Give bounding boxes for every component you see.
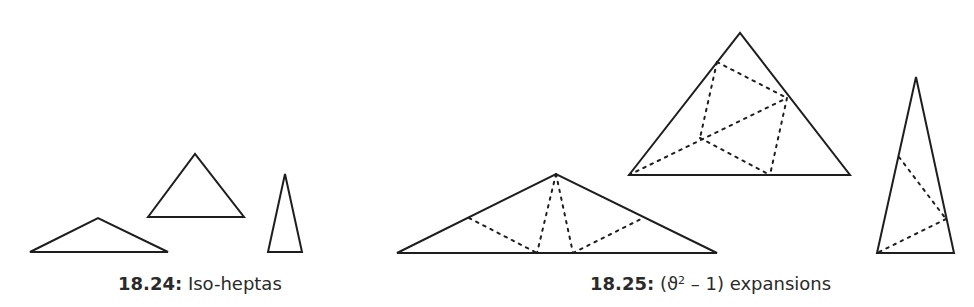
triangle-outline: [397, 174, 717, 253]
diagram-canvas: [0, 0, 974, 307]
figure-caption-18-24: 18.24: Iso-heptas: [118, 275, 282, 293]
dotted-subdivision-line: [629, 98, 787, 175]
triangle-thin-iso-hepta: [268, 174, 302, 252]
dotted-subdivision-line: [556, 174, 573, 253]
figure-title: Iso-heptas: [188, 273, 282, 294]
figure-title-exponent: 2: [678, 274, 685, 287]
thin-expansion: [877, 77, 954, 253]
dotted-subdivision-line: [770, 98, 787, 175]
dotted-subdivision-line: [573, 218, 643, 253]
medium-expansion: [629, 33, 850, 175]
dotted-subdivision-line: [469, 218, 537, 253]
dotted-subdivision-line: [700, 138, 770, 175]
triangle-obtuse-iso-hepta: [30, 218, 168, 252]
dotted-subdivision-line: [537, 174, 556, 253]
triangle-outline: [629, 33, 850, 175]
figure-number: 18.25:: [590, 273, 654, 294]
figure-number: 18.24:: [118, 273, 182, 294]
triangle-outline: [877, 77, 954, 253]
dotted-subdivision-line: [877, 219, 946, 253]
figure-18-24: [30, 154, 302, 252]
figure-title-close: – 1) expansions: [685, 273, 831, 294]
figure-title-open: (ϑ: [660, 273, 678, 294]
obtuse-expansion: [397, 174, 717, 253]
figure-18-25: [397, 33, 954, 253]
figure-caption-18-25: 18.25: (ϑ2 – 1) expansions: [590, 275, 831, 293]
triangle-medium-iso-hepta: [148, 154, 244, 217]
